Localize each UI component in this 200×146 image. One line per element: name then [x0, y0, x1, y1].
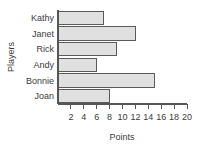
bar-chart-svg: 2468101214161820 KathyJanetRickAndyBonni… — [0, 0, 200, 146]
bar-andy — [58, 58, 97, 71]
bar-chart-container: 2468101214161820 KathyJanetRickAndyBonni… — [0, 0, 200, 146]
category-label-andy: Andy — [33, 60, 54, 70]
category-label-bonnie: Bonnie — [26, 76, 54, 86]
x-tick-label-20: 20 — [182, 112, 192, 122]
category-labels-group: KathyJanetRickAndyBonnieJoan — [26, 13, 55, 101]
bars-group — [58, 11, 155, 103]
bar-bonnie — [58, 74, 155, 87]
x-tick-label-2: 2 — [68, 112, 73, 122]
x-tick-labels-group: 2468101214161820 — [68, 112, 192, 122]
x-tick-label-6: 6 — [94, 112, 99, 122]
x-tick-label-4: 4 — [81, 112, 86, 122]
category-label-joan: Joan — [34, 91, 54, 101]
bar-janet — [58, 27, 135, 40]
x-tick-label-12: 12 — [130, 112, 140, 122]
x-tick-label-18: 18 — [169, 112, 179, 122]
x-tick-label-14: 14 — [143, 112, 153, 122]
bar-joan — [58, 90, 110, 103]
x-tick-label-10: 10 — [117, 112, 127, 122]
x-tick-label-16: 16 — [156, 112, 166, 122]
category-label-janet: Janet — [32, 29, 55, 39]
bar-rick — [58, 43, 116, 56]
category-label-rick: Rick — [37, 44, 55, 54]
bar-kathy — [58, 11, 103, 24]
category-label-kathy: Kathy — [31, 13, 55, 23]
plot-area: 2468101214161820 KathyJanetRickAndyBonni… — [26, 10, 192, 122]
x-tick-label-8: 8 — [107, 112, 112, 122]
x-ticks-group — [71, 104, 187, 109]
y-axis-title: Players — [6, 41, 16, 72]
x-axis-title: Points — [109, 132, 135, 142]
